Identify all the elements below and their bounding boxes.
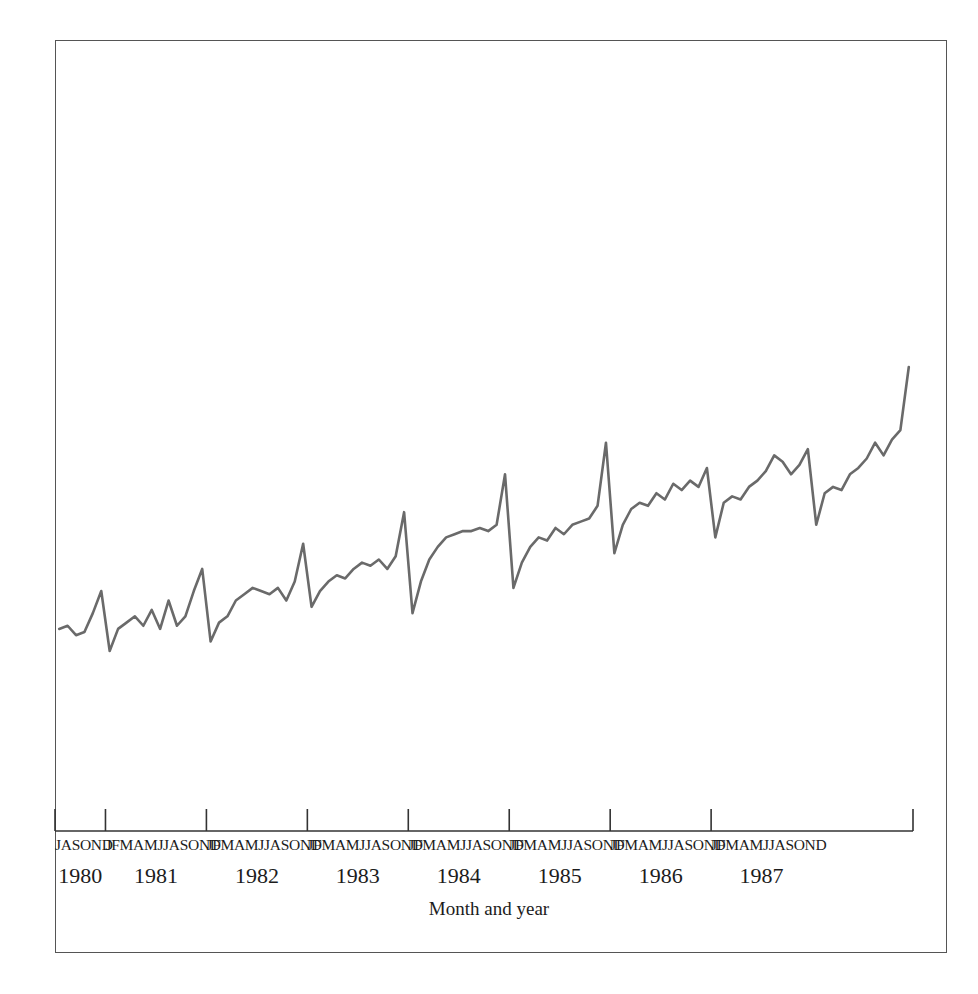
month-letters-1984: JFMAMJJASOND <box>408 834 509 856</box>
month-letters-1987: JFMAMJJASOND <box>711 834 812 856</box>
month-letters-1986: JFMAMJJASOND <box>610 834 711 856</box>
year-label-1984: 1984 <box>437 861 481 891</box>
month-letter-labels: JASONDJFMAMJJASONDJFMAMJJASONDJFMAMJJASO… <box>38 834 918 856</box>
figure-container: JASONDJFMAMJJASONDJFMAMJJASONDJFMAMJJASO… <box>0 0 978 994</box>
year-label-1987: 1987 <box>740 861 784 891</box>
year-label-1980: 1980 <box>58 861 102 891</box>
data-series-line <box>59 367 909 651</box>
year-label-1983: 1983 <box>336 861 380 891</box>
month-letters-1982: JFMAMJJASOND <box>206 834 307 856</box>
month-letters-1985: JFMAMJJASOND <box>509 834 610 856</box>
year-labels: 19801981198219831984198519861987 <box>38 861 918 893</box>
x-axis-title: Month and year <box>0 898 978 920</box>
year-label-1985: 1985 <box>538 861 582 891</box>
month-letters-1981: JFMAMJJASOND <box>105 834 206 856</box>
year-label-1982: 1982 <box>235 861 279 891</box>
axis-group <box>55 809 913 831</box>
month-letters-1980: JASOND <box>55 834 105 856</box>
x-axis-ticks <box>55 809 913 831</box>
year-label-1981: 1981 <box>134 861 178 891</box>
year-label-1986: 1986 <box>639 861 683 891</box>
month-letters-1983: JFMAMJJASOND <box>307 834 408 856</box>
